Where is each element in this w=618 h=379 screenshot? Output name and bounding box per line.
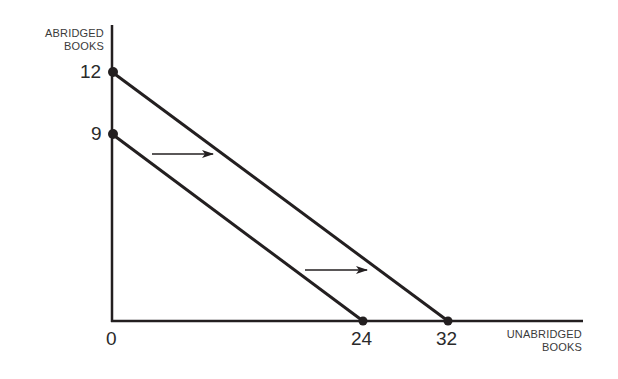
y-axis-title-line-2: BOOKS: [20, 40, 104, 53]
x-axis-title-line-2: BOOKS: [480, 341, 582, 354]
y-axis-title-line-1: ABRIDGED: [20, 27, 104, 40]
point-x-24: [359, 317, 368, 326]
budget-line-chart: [0, 0, 618, 379]
y-axis-title: ABRIDGED BOOKS: [20, 27, 104, 53]
x-tick-24: 24: [351, 329, 372, 349]
budget-line-shifted: [112, 72, 448, 321]
y-tick-9: 9: [91, 124, 102, 144]
x-axis-title: UNABRIDGED BOOKS: [480, 328, 582, 354]
point-x-32: [444, 317, 453, 326]
point-y-12: [108, 67, 118, 77]
x-axis-title-line-1: UNABRIDGED: [480, 328, 582, 341]
x-tick-0: 0: [106, 329, 117, 349]
point-y-9: [108, 129, 118, 139]
budget-line-original: [112, 134, 363, 321]
x-tick-32: 32: [436, 329, 457, 349]
y-tick-12: 12: [80, 62, 101, 82]
